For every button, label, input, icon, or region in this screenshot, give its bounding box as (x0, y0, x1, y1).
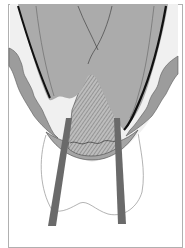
dental-illustration (0, 0, 185, 248)
